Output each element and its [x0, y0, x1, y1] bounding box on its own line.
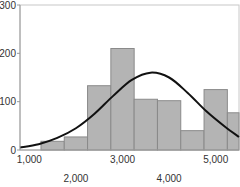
histogram-bar: [227, 113, 239, 150]
y-tick-label: 0: [10, 145, 16, 156]
y-tick-label: 300: [0, 0, 16, 11]
histogram-bar: [111, 49, 134, 151]
y-tick-label: 200: [0, 48, 16, 59]
histogram-bar: [157, 101, 180, 150]
x-tick-label: 3,000: [110, 154, 135, 165]
x-tick-label: 4,000: [157, 173, 182, 184]
x-tick-label: 5,000: [203, 154, 228, 165]
y-tick-label: 100: [0, 96, 16, 107]
histogram-bar: [181, 131, 204, 150]
y-axis-ticks: 0100200300: [0, 0, 20, 156]
x-axis-ticks: 1,0002,0003,0004,0005,000: [17, 154, 229, 184]
x-tick-label: 1,000: [17, 154, 42, 165]
x-tick-label: 2,000: [63, 173, 88, 184]
histogram-bar: [134, 99, 157, 150]
histogram-chart: 0100200300 1,0002,0003,0004,0005,000: [0, 0, 240, 187]
histogram-bar: [64, 137, 87, 150]
